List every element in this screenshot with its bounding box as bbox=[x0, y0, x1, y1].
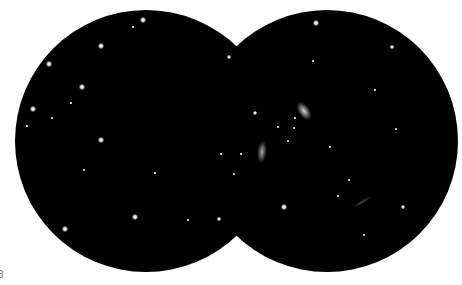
left-field-star bbox=[98, 137, 104, 143]
right-field-star bbox=[312, 60, 315, 63]
corner-label: 3 bbox=[0, 268, 4, 281]
left-field-star bbox=[140, 17, 146, 23]
right-field-star bbox=[294, 117, 297, 120]
left-field-star bbox=[217, 217, 222, 222]
right-field-star bbox=[337, 195, 340, 198]
left-field-star bbox=[30, 106, 36, 112]
left-field-star bbox=[220, 153, 223, 156]
right-field-star bbox=[395, 128, 398, 131]
left-field-star bbox=[154, 172, 157, 175]
right-field-star bbox=[240, 153, 243, 156]
left-field-star bbox=[26, 125, 29, 128]
left-field-star bbox=[98, 43, 104, 49]
right-field-star bbox=[401, 205, 406, 210]
left-field-star bbox=[79, 84, 85, 90]
right-field-star bbox=[281, 204, 287, 210]
right-field-circle bbox=[196, 10, 458, 272]
left-field-star bbox=[83, 169, 86, 172]
right-field-star bbox=[374, 89, 377, 92]
left-field-star bbox=[46, 61, 52, 67]
right-field-star bbox=[363, 234, 366, 237]
right-field-star bbox=[287, 140, 290, 143]
binocular-sketch bbox=[0, 0, 462, 285]
right-field-star bbox=[277, 126, 280, 129]
right-field-star bbox=[253, 111, 258, 116]
right-field-star bbox=[348, 179, 351, 182]
right-field-star bbox=[329, 146, 332, 149]
left-field-star bbox=[62, 226, 68, 232]
right-field-star bbox=[390, 45, 395, 50]
right-field-star bbox=[293, 127, 296, 130]
right-field-star bbox=[313, 20, 319, 26]
right-field-star bbox=[233, 173, 236, 176]
left-field-star bbox=[132, 214, 138, 220]
left-field-star bbox=[187, 219, 190, 222]
left-field-star bbox=[227, 55, 232, 60]
left-field-star bbox=[70, 102, 73, 105]
left-field-star bbox=[132, 26, 135, 29]
left-field-star bbox=[51, 117, 54, 120]
field-circles bbox=[15, 10, 458, 272]
